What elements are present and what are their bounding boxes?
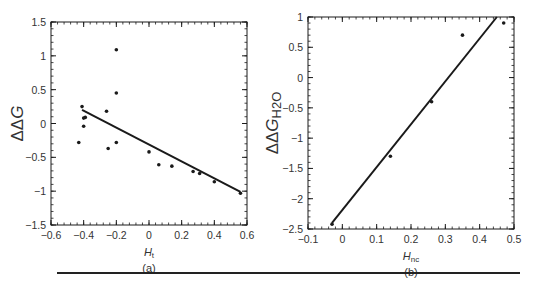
x-tick-label: 0 xyxy=(146,229,152,241)
y-tick-label: −1.5 xyxy=(25,219,46,231)
x-tick-label: 0.4 xyxy=(472,233,487,245)
x-tick-label: −0.4 xyxy=(73,229,94,241)
x-axis-title-subscript: t xyxy=(152,251,155,260)
x-axis-title: Hnc xyxy=(403,250,419,264)
y-axis-title: ΔΔGH2O xyxy=(263,92,284,155)
x-tick-label: 0.3 xyxy=(438,233,453,245)
plot-frame xyxy=(51,22,247,225)
y-tick-label: 1.5 xyxy=(31,16,46,28)
y-tick-label: −0.5 xyxy=(282,102,303,114)
data-point xyxy=(502,21,506,25)
y-tick-label: −1.5 xyxy=(282,162,303,174)
data-point xyxy=(77,141,81,145)
y-axis-title-g: G xyxy=(263,118,282,131)
x-tick-label: 0.6 xyxy=(240,229,255,241)
y-tick-label: 1 xyxy=(40,50,46,62)
y-axis-title: ΔΔG xyxy=(8,106,27,142)
x-axis-title-subscript: nc xyxy=(411,255,419,264)
data-point xyxy=(461,33,465,37)
data-point xyxy=(147,150,151,154)
y-tick-label: 0.5 xyxy=(31,84,46,96)
x-tick-label: 0.4 xyxy=(207,229,222,241)
y-tick-label: 0 xyxy=(297,72,303,84)
y-axis-title-g: G xyxy=(8,106,27,119)
y-tick-label: −1 xyxy=(291,132,303,144)
chart-panel-b: −0.100.10.20.30.40.5−2.5−2−1.5−1−0.500.5… xyxy=(263,11,521,278)
chart-panel-a: −0.6−0.4−0.200.20.40.6−1.5−1−0.500.511.5… xyxy=(8,16,254,274)
x-tick-label: 0.2 xyxy=(174,229,189,241)
regression-line xyxy=(332,17,497,223)
y-tick-label: −1 xyxy=(34,185,46,197)
data-point xyxy=(239,191,243,195)
data-point xyxy=(115,48,119,52)
data-point xyxy=(106,147,110,151)
data-point xyxy=(157,163,161,167)
y-tick-label: 0 xyxy=(40,118,46,130)
data-point xyxy=(105,110,109,114)
x-tick-label: −0.2 xyxy=(106,229,127,241)
regression-line xyxy=(82,110,240,192)
data-point xyxy=(213,180,217,184)
y-tick-label: 0.5 xyxy=(288,41,303,53)
data-point xyxy=(430,100,434,104)
data-point xyxy=(170,164,174,168)
data-point xyxy=(115,141,119,145)
data-point xyxy=(82,124,86,128)
data-point xyxy=(191,170,195,174)
x-tick-label: 0 xyxy=(339,233,345,245)
y-tick-label: −0.5 xyxy=(25,151,46,163)
data-point xyxy=(198,172,202,176)
x-axis-title: Ht xyxy=(144,246,155,260)
x-tick-label: 0.5 xyxy=(507,233,522,245)
figure: −0.6−0.4−0.200.20.40.6−1.5−1−0.500.511.5… xyxy=(0,0,533,292)
x-tick-label: 0.1 xyxy=(369,233,384,245)
data-point xyxy=(115,91,119,95)
data-point xyxy=(330,222,334,226)
x-tick-label: 0.2 xyxy=(404,233,419,245)
y-axis-title-subscript: H2O xyxy=(269,92,284,119)
data-point xyxy=(80,105,84,109)
data-point xyxy=(389,155,393,159)
y-tick-label: 1 xyxy=(297,11,303,23)
y-tick-label: −2.5 xyxy=(282,223,303,235)
data-point xyxy=(84,116,88,120)
y-tick-label: −2 xyxy=(291,193,303,205)
